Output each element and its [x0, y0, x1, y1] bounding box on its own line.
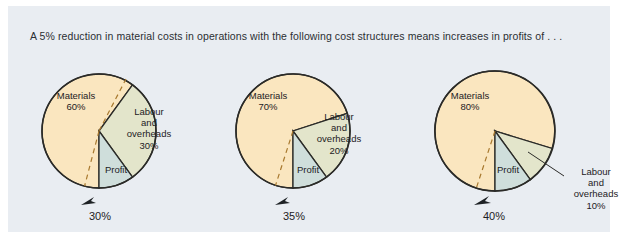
- pie-2-label-materials: Materials 70%: [230, 90, 306, 124]
- pie-3-label-labour: Labour and overheads 10%: [565, 166, 622, 222]
- pie-3-arrow-icon: [474, 196, 491, 205]
- pie-1-arrow-icon: [81, 197, 96, 205]
- pie-chart-2: Materials 70% Labour and overheads 20% P…: [202, 6, 412, 232]
- pie-2-label-labour: Labour and overheads 20%: [308, 111, 370, 167]
- pie-1-label-labour: Labour and overheads 30%: [118, 106, 180, 162]
- pie-1-label-materials: Materials 60%: [38, 90, 114, 124]
- pie-1-profit-increase: 30%: [70, 210, 130, 222]
- pie-2-value-materials: 70%: [230, 101, 306, 112]
- pie-3-value-materials: 80%: [432, 101, 508, 112]
- pie-2-label-profit: Profit: [288, 164, 328, 175]
- pie-1-value-labour: 30%: [118, 140, 180, 151]
- pie-chart-3: Materials 80% Labour and overheads 10% P…: [396, 6, 606, 232]
- pie-3-value-labour: 10%: [565, 200, 622, 211]
- figure-panel: A 5% reduction in material costs in oper…: [8, 6, 610, 232]
- pie-2-arrow-icon: [275, 197, 290, 205]
- pie-1-value-materials: 60%: [38, 101, 114, 112]
- pie-3-profit-increase: 40%: [464, 210, 524, 222]
- pie-3-label-profit: Profit: [488, 164, 528, 175]
- pie-2-profit-increase: 35%: [264, 210, 324, 222]
- pie-3-label-materials: Materials 80%: [432, 90, 508, 124]
- pie-1-label-profit: Profit: [96, 164, 136, 175]
- pie-chart-1: Materials 60% Labour and overheads 30% P…: [8, 6, 218, 232]
- pie-2-value-labour: 20%: [308, 145, 370, 156]
